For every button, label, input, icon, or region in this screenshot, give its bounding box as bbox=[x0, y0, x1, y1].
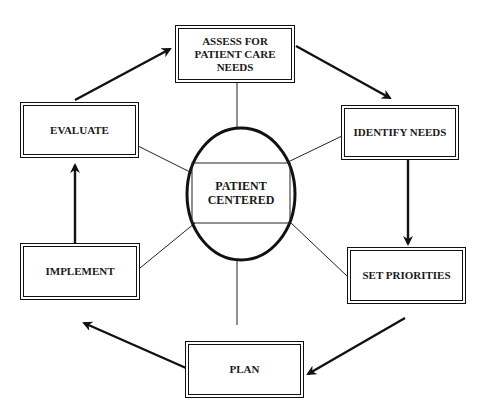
node-plan: PLAN bbox=[185, 341, 304, 398]
arrow-priorities-to-plan bbox=[308, 318, 405, 374]
arrow-assess-to-identify bbox=[296, 46, 390, 98]
node-plan-label: PLAN bbox=[230, 363, 260, 376]
arrow-evaluate-to-assess bbox=[75, 49, 170, 100]
node-priorities: SET PRIORITIES bbox=[347, 247, 466, 304]
node-assess-label: ASSESS FOR PATIENT CARE NEEDS bbox=[195, 35, 276, 74]
spoke-implement bbox=[140, 223, 195, 268]
node-identify: IDENTIFY NEEDS bbox=[341, 105, 459, 160]
node-implement-label: IMPLEMENT bbox=[45, 265, 114, 278]
center-label: PATIENT CENTERED bbox=[208, 179, 275, 207]
node-evaluate: EVALUATE bbox=[20, 102, 139, 158]
center-label-box: PATIENT CENTERED bbox=[192, 163, 290, 223]
node-implement: IMPLEMENT bbox=[20, 243, 140, 300]
node-assess: ASSESS FOR PATIENT CARE NEEDS bbox=[175, 25, 295, 83]
spoke-priorities bbox=[290, 222, 347, 276]
node-identify-label: IDENTIFY NEEDS bbox=[354, 126, 447, 139]
spoke-evaluate bbox=[138, 146, 192, 173]
node-evaluate-label: EVALUATE bbox=[50, 124, 109, 137]
spoke-identify bbox=[288, 136, 342, 162]
arrow-plan-to-implement bbox=[84, 323, 186, 368]
node-priorities-label: SET PRIORITIES bbox=[362, 269, 450, 282]
